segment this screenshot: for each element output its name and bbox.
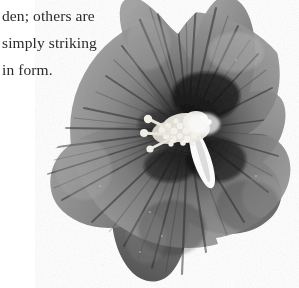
scanned-page: den; others are simply striking in form. xyxy=(0,0,299,288)
body-text-block: den; others are simply striking in form. xyxy=(2,2,127,83)
body-text-line-2: simply striking xyxy=(2,29,127,56)
body-text-line-3: in form. xyxy=(2,56,127,83)
body-text-line-1: den; others are xyxy=(2,2,127,29)
column-flare xyxy=(188,113,220,135)
